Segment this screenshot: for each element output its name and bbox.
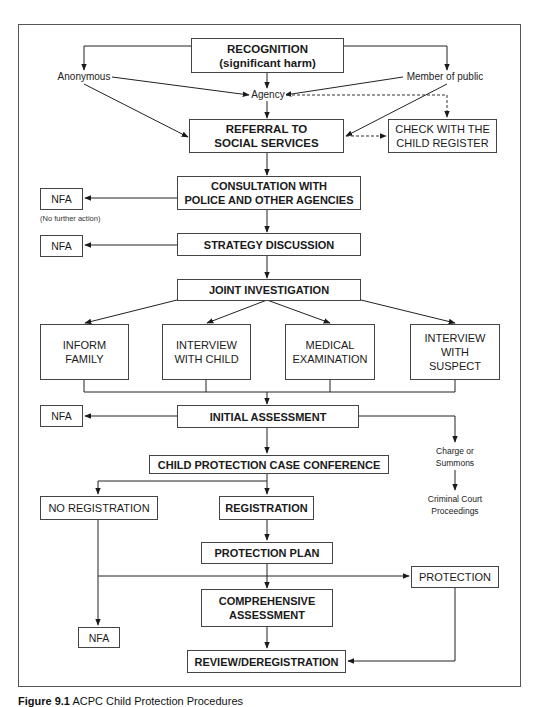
protection-plan-label: PROTECTION PLAN	[214, 546, 319, 560]
initial-assessment-box: INITIAL ASSESSMENT	[177, 405, 359, 428]
figure-caption: Figure 9.1 ACPC Child Protection Procedu…	[18, 695, 243, 707]
strategy-label: STRATEGY DISCUSSION	[204, 238, 334, 252]
protection-label: PROTECTION	[419, 570, 491, 584]
nfa-box-2: NFA	[40, 235, 83, 257]
initial-assessment-label: INITIAL ASSESSMENT	[210, 410, 327, 424]
anonymous-label: Anonymous	[52, 71, 116, 83]
nfa-box-4: NFA	[78, 627, 120, 648]
criminal-court-label: Criminal Court Proceedings	[415, 493, 495, 517]
interview-suspect-box: INTERVIEW WITH SUSPECT	[410, 324, 500, 380]
joint-investigation-label: JOINT INVESTIGATION	[209, 283, 329, 297]
protection-box: PROTECTION	[411, 566, 499, 588]
medical-examination-label: MEDICAL EXAMINATION	[293, 338, 368, 366]
review-deregistration-label: REVIEW/DEREGISTRATION	[194, 655, 338, 669]
check-register-box: CHECK WITH THE CHILD REGISTER	[388, 119, 497, 153]
comprehensive-assessment-label: COMPREHENSIVE ASSESSMENT	[219, 594, 316, 622]
charge-summons-label: Charge or Summons	[420, 445, 490, 469]
interview-child-box: INTERVIEW WITH CHILD	[162, 324, 251, 380]
referral-box: REFERRAL TO SOCIAL SERVICES	[189, 119, 344, 153]
no-registration-box: NO REGISTRATION	[40, 496, 158, 520]
check-register-label: CHECK WITH THE CHILD REGISTER	[395, 122, 490, 150]
member-of-public-label: Member of public	[400, 71, 490, 83]
agency-label: Agency	[250, 89, 286, 101]
nfa-box-3: NFA	[40, 405, 83, 427]
registration-box: REGISTRATION	[219, 496, 314, 520]
comprehensive-assessment-box: COMPREHENSIVE ASSESSMENT	[201, 589, 333, 627]
strategy-box: STRATEGY DISCUSSION	[177, 233, 361, 256]
registration-label: REGISTRATION	[225, 501, 307, 515]
case-conference-label: CHILD PROTECTION CASE CONFERENCE	[158, 458, 380, 472]
case-conference-box: CHILD PROTECTION CASE CONFERENCE	[149, 455, 389, 474]
medical-examination-box: MEDICAL EXAMINATION	[285, 324, 375, 380]
figure-caption-text: ACPC Child Protection Procedures	[72, 695, 243, 707]
inform-family-label: INFORM FAMILY	[63, 338, 106, 366]
interview-child-label: INTERVIEW WITH CHILD	[174, 338, 238, 366]
interview-suspect-label: INTERVIEW WITH SUSPECT	[425, 331, 486, 373]
no-registration-label: NO REGISTRATION	[48, 501, 149, 515]
recognition-box: RECOGNITION (significant harm)	[191, 38, 344, 73]
nfa-label-2: NFA	[51, 239, 71, 253]
nfa-note: (No further action)	[40, 214, 100, 223]
nfa-box-1: NFA	[40, 188, 83, 210]
review-deregistration-box: REVIEW/DEREGISTRATION	[187, 650, 346, 673]
recognition-label: RECOGNITION (significant harm)	[219, 42, 315, 70]
referral-label: REFERRAL TO SOCIAL SERVICES	[214, 122, 318, 150]
consultation-box: CONSULTATION WITH POLICE AND OTHER AGENC…	[177, 176, 361, 210]
nfa-label-1: NFA	[51, 192, 71, 206]
nfa-label-4: NFA	[89, 631, 109, 645]
nfa-label-3: NFA	[51, 409, 71, 423]
figure-label: Figure 9.1	[18, 695, 70, 707]
protection-plan-box: PROTECTION PLAN	[201, 542, 333, 564]
consultation-label: CONSULTATION WITH POLICE AND OTHER AGENC…	[184, 179, 353, 207]
joint-investigation-box: JOINT INVESTIGATION	[177, 279, 361, 301]
inform-family-box: INFORM FAMILY	[40, 324, 129, 380]
